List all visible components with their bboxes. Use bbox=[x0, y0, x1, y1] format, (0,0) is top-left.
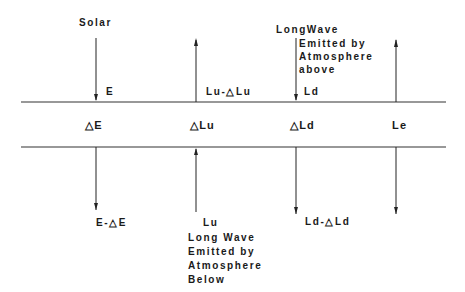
lu-note-line-1: Long Wave bbox=[188, 232, 255, 243]
ld-header-line-1: LongWave bbox=[276, 24, 339, 35]
le-mid-label: Le bbox=[392, 119, 407, 131]
lu-bottom-label: Lu bbox=[203, 217, 218, 228]
ld-header-line-3: Atmosphere bbox=[299, 51, 373, 62]
lu-top-label: Lu-△Lu bbox=[206, 86, 251, 97]
solar-header: Solar bbox=[79, 17, 112, 28]
ld-header-line-2: Emitted by bbox=[299, 38, 366, 49]
arrowhead-icon bbox=[94, 203, 98, 210]
solar-top-label: E bbox=[106, 86, 114, 97]
solar-bottom-label: E-△E bbox=[96, 217, 127, 228]
ld-mid-label: △Ld bbox=[289, 119, 315, 131]
radiation-layer-diagram: Solar E △E E-△E Lu-△Lu △Lu Lu Long Wave … bbox=[0, 0, 465, 292]
arrowhead-icon bbox=[294, 94, 298, 101]
arrowhead-icon bbox=[94, 94, 98, 101]
ld-header-line-4: above bbox=[299, 64, 336, 75]
ld-bottom-label: Ld-△Ld bbox=[305, 216, 350, 227]
arrowhead-icon bbox=[394, 207, 398, 214]
ld-top-label: Ld bbox=[304, 86, 319, 97]
lu-mid-label: △Lu bbox=[189, 119, 215, 131]
lu-note-line-2: Emitted by bbox=[188, 246, 255, 257]
arrowhead-icon bbox=[394, 39, 398, 47]
arrowhead-icon bbox=[294, 207, 298, 214]
arrowhead-icon bbox=[194, 38, 198, 46]
arrowhead-icon bbox=[194, 148, 198, 155]
lu-note-line-3: Atmosphere bbox=[188, 260, 262, 271]
solar-mid-label: △E bbox=[84, 119, 103, 131]
lu-note-line-4: Below bbox=[188, 274, 225, 285]
